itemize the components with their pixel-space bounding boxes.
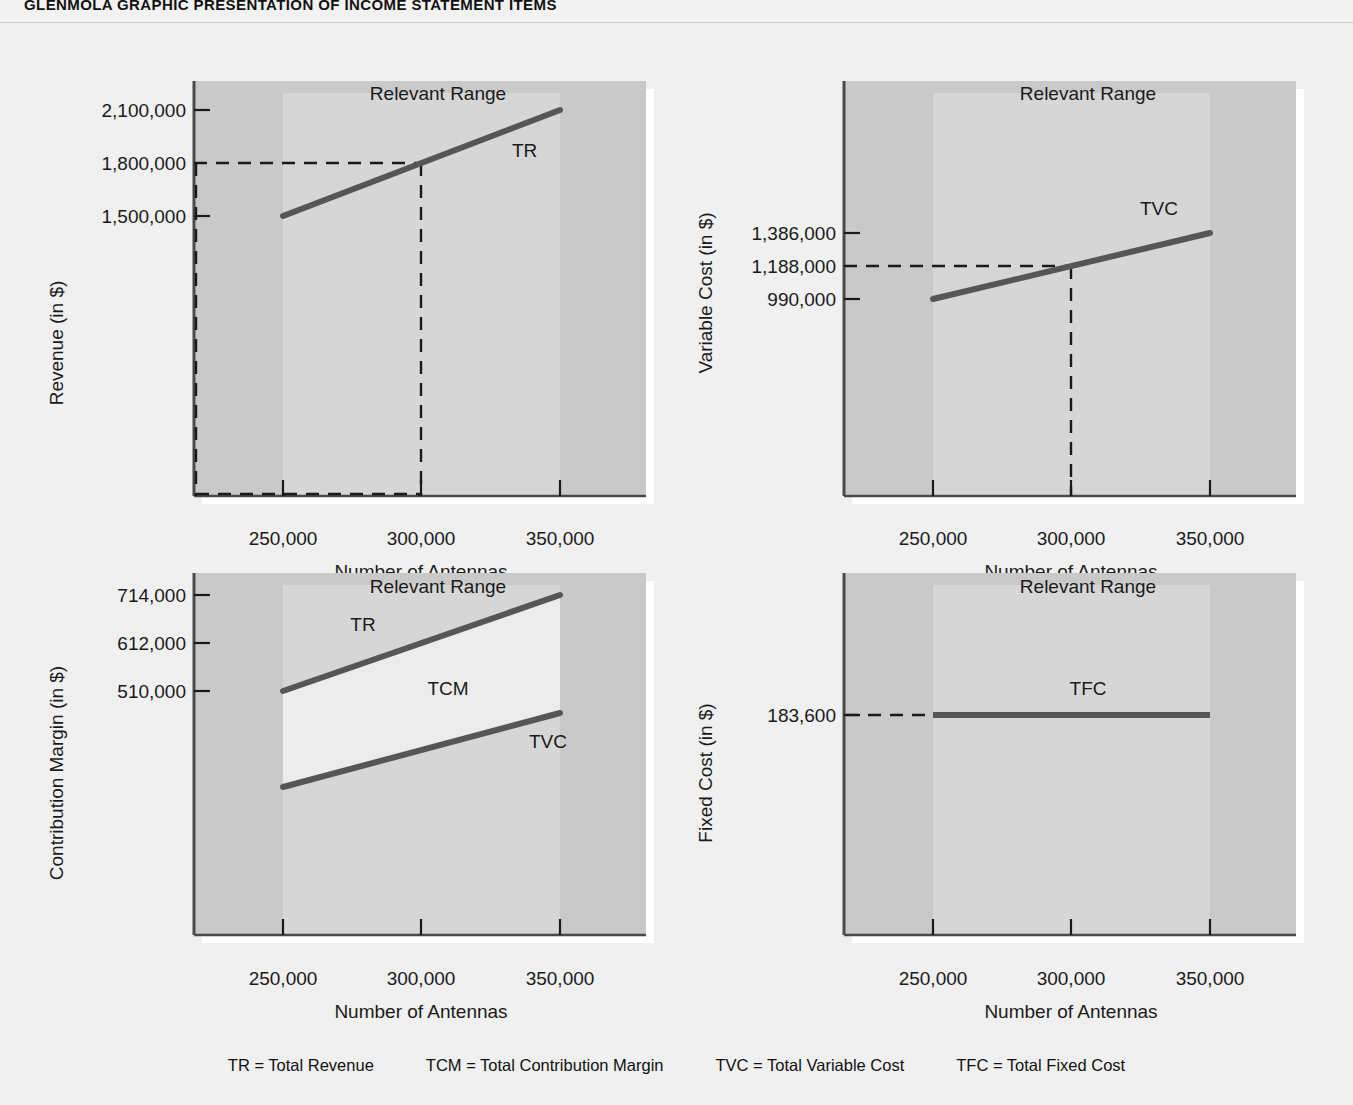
revenue-chart-svg: Relevant Range TR 2,100,000 1,800,000 1,… xyxy=(18,43,668,523)
contribution-margin-axis-labels: 250,000 300,000 350,000 Number of Antenn… xyxy=(18,961,668,1031)
y-axis-label: Variable Cost (in $) xyxy=(695,212,716,373)
chart-panel-fixed-cost: Relevant Range TFC 183,600 Fixed Cost (i… xyxy=(660,543,1320,1031)
series-label-TVC: TVC xyxy=(529,731,567,752)
legend-item-tcm: TCM = Total Contribution Margin xyxy=(426,1056,664,1075)
legend-item-tr: TR = Total Revenue xyxy=(228,1056,374,1075)
y-tick-label-1: 1,800,000 xyxy=(101,153,186,174)
y-tick-label-1: 1,188,000 xyxy=(751,256,836,277)
legend-item-tfc: TFC = Total Fixed Cost xyxy=(956,1056,1125,1075)
x-axis-label: Number of Antennas xyxy=(984,1001,1157,1022)
x-tick-label-2: 350,000 xyxy=(526,968,595,989)
x-tick-label-1: 300,000 xyxy=(1037,968,1106,989)
y-tick-label-0: 2,100,000 xyxy=(101,100,186,121)
legend-item-tvc: TVC = Total Variable Cost xyxy=(716,1056,905,1075)
chart-panel-contribution-margin: Relevant Range TR TCM TVC 714,000 612,00… xyxy=(18,543,668,1031)
tcm-fill-label: TCM xyxy=(427,678,468,699)
fixed-cost-chart-svg: Relevant Range TFC 183,600 Fixed Cost (i… xyxy=(660,543,1320,963)
relevant-range-band xyxy=(933,585,1210,935)
series-label-TVC: TVC xyxy=(1140,198,1178,219)
relevant-range-label: Relevant Range xyxy=(370,83,506,104)
x-tick-label-0: 250,000 xyxy=(249,968,318,989)
variable-cost-chart-svg: Relevant Range TVC 1,386,000 1,188,000 9… xyxy=(660,43,1320,523)
x-axis-label: Number of Antennas xyxy=(334,1001,507,1022)
y-tick-label-1: 612,000 xyxy=(117,633,186,654)
y-axis-label: Fixed Cost (in $) xyxy=(695,703,716,842)
y-tick-label-0: 714,000 xyxy=(117,585,186,606)
series-label-TFC: TFC xyxy=(1070,678,1107,699)
relevant-range-label: Relevant Range xyxy=(1020,576,1156,597)
page-title: GLENMOLA GRAPHIC PRESENTATION OF INCOME … xyxy=(24,0,557,13)
y-tick-label-2: 1,500,000 xyxy=(101,206,186,227)
chart-panel-revenue: Relevant Range TR 2,100,000 1,800,000 1,… xyxy=(18,43,668,591)
y-tick-label-0: 1,386,000 xyxy=(751,223,836,244)
chart-panel-variable-cost: Relevant Range TVC 1,386,000 1,188,000 9… xyxy=(660,43,1320,591)
x-tick-label-1: 300,000 xyxy=(387,968,456,989)
contribution-margin-chart-svg: Relevant Range TR TCM TVC 714,000 612,00… xyxy=(18,543,668,963)
y-tick-label-0: 183,600 xyxy=(767,705,836,726)
y-axis-label: Revenue (in $) xyxy=(46,281,67,406)
fixed-cost-axis-labels: 250,000 300,000 350,000 Number of Antenn… xyxy=(660,961,1320,1031)
x-tick-label-2: 350,000 xyxy=(1176,968,1245,989)
legend: TR = Total Revenue TCM = Total Contribut… xyxy=(0,1056,1353,1075)
y-tick-label-2: 990,000 xyxy=(767,289,836,310)
series-label-TR: TR xyxy=(350,614,375,635)
relevant-range-label: Relevant Range xyxy=(370,576,506,597)
figure-frame: Relevant Range TR 2,100,000 1,800,000 1,… xyxy=(0,22,1353,1105)
series-label-TR: TR xyxy=(512,140,537,161)
x-tick-label-0: 250,000 xyxy=(899,968,968,989)
y-axis-label: Contribution Margin (in $) xyxy=(46,666,67,880)
y-tick-label-2: 510,000 xyxy=(117,681,186,702)
relevant-range-label: Relevant Range xyxy=(1020,83,1156,104)
